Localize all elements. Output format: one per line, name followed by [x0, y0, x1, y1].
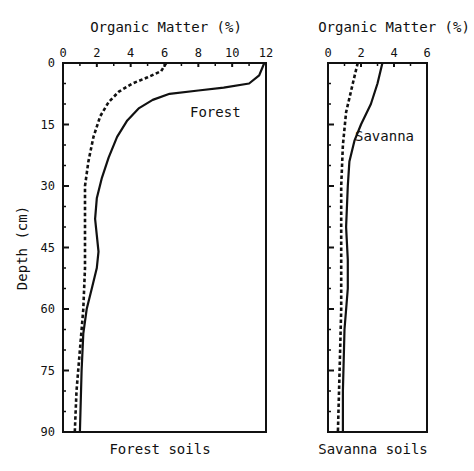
y-axis-title: Depth (cm) — [14, 206, 30, 290]
y-tick-label: 75 — [41, 364, 55, 378]
savanna-x-tick-label: 4 — [390, 46, 397, 60]
y-tick-label: 30 — [41, 179, 55, 193]
y-tick-label: 45 — [41, 241, 55, 255]
y-tick-label: 60 — [41, 302, 55, 316]
forest-x-tick-label: 0 — [59, 46, 66, 60]
forest-x-tick-label: 10 — [225, 46, 239, 60]
forest-curve-label: Forest — [190, 104, 241, 120]
savanna-x-tick-label: 6 — [423, 46, 430, 60]
savanna-curve-label: Savanna — [355, 128, 414, 144]
y-tick-label: 0 — [48, 56, 55, 70]
forest-x-tick-label: 2 — [93, 46, 100, 60]
forest-x-axis-title: Organic Matter (%) — [90, 19, 242, 35]
savanna-solid-curve — [343, 63, 383, 432]
forest-x-tick-label: 8 — [195, 46, 202, 60]
forest-caption: Forest soils — [109, 441, 210, 457]
y-tick-label: 90 — [41, 425, 55, 439]
savanna-caption: Savanna soils — [318, 441, 428, 457]
savanna-panel: 0246 — [324, 46, 430, 432]
forest-dashed-curve — [75, 63, 166, 432]
savanna-x-axis-title: Organic Matter (%) — [318, 19, 470, 35]
organic-matter-depth-chart: Organic Matter (%) Organic Matter (%) De… — [0, 0, 474, 471]
forest-x-tick-label: 4 — [127, 46, 134, 60]
savanna-x-tick-label: 0 — [324, 46, 331, 60]
forest-x-tick-label: 6 — [161, 46, 168, 60]
y-tick-label: 15 — [41, 118, 55, 132]
savanna-x-tick-label: 2 — [357, 46, 364, 60]
forest-x-tick-label: 12 — [259, 46, 273, 60]
